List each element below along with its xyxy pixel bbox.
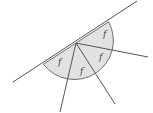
geometry-diagram: f f f f [0, 0, 153, 113]
